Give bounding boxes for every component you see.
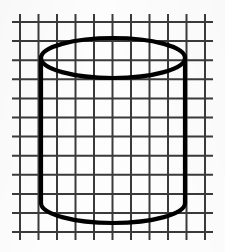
figure-canvas: Cylinder drawn on graph paper A right ci… [0, 0, 225, 252]
cylinder-diagram: Cylinder drawn on graph paper A right ci… [0, 0, 225, 252]
